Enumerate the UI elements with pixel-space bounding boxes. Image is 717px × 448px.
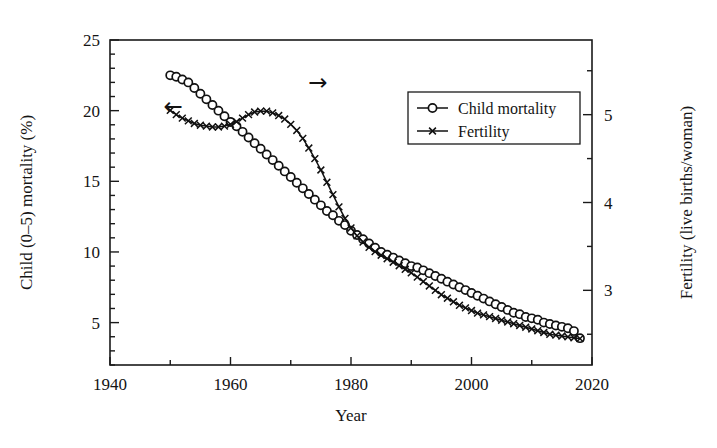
legend: Child mortalityFertility xyxy=(408,92,580,144)
marker-x xyxy=(311,155,318,162)
legend-marker-circle xyxy=(428,104,436,112)
y2-tick-label: 5 xyxy=(604,106,613,125)
x-tick-label: 1940 xyxy=(93,375,127,394)
marker-x xyxy=(324,179,331,186)
marker-x xyxy=(444,295,451,302)
marker-x xyxy=(330,191,337,198)
x-tick-label: 2020 xyxy=(575,375,609,394)
y-axis-right: 345Fertility (live births/woman) xyxy=(583,71,696,335)
legend-label: Fertility xyxy=(458,123,510,141)
marker-x xyxy=(420,278,427,285)
y-axis-label: Child (0–5) mortality (%) xyxy=(17,115,36,290)
x-axis: 19401960198020002020Year xyxy=(93,357,609,425)
marker-x xyxy=(426,283,433,290)
marker-x xyxy=(299,135,306,142)
y2-tick-label: 4 xyxy=(604,194,613,213)
y-axis-left: 510152025Child (0–5) mortality (%) xyxy=(17,31,119,365)
y-tick-label: 20 xyxy=(83,102,100,121)
y-tick-label: 15 xyxy=(83,172,100,191)
y-tick-label: 5 xyxy=(92,314,101,333)
marker-x xyxy=(305,145,312,152)
y-tick-label: 10 xyxy=(83,243,100,262)
y2-axis-label: Fertility (live births/woman) xyxy=(677,106,696,300)
x-tick-label: 1960 xyxy=(214,375,248,394)
x-axis-label: Year xyxy=(335,406,367,425)
marker-x xyxy=(336,203,343,210)
x-tick-label: 1980 xyxy=(334,375,368,394)
legend-label: Child mortality xyxy=(458,100,556,118)
marker-x xyxy=(450,298,457,305)
marker-x xyxy=(239,115,246,122)
marker-x xyxy=(414,274,421,281)
y2-tick-label: 3 xyxy=(604,281,613,300)
right-axis-arrow: → xyxy=(308,69,327,95)
x-tick-label: 2000 xyxy=(455,375,489,394)
figure: 19401960198020002020Year510152025Child (… xyxy=(0,0,717,448)
marker-x xyxy=(432,287,439,294)
y-tick-label: 25 xyxy=(83,31,100,50)
marker-x xyxy=(293,127,300,134)
chart-canvas: 19401960198020002020Year510152025Child (… xyxy=(0,0,717,448)
left-axis-arrow: ← xyxy=(164,93,183,119)
marker-x xyxy=(317,167,324,174)
marker-x xyxy=(438,291,445,298)
marker-x xyxy=(287,121,294,128)
